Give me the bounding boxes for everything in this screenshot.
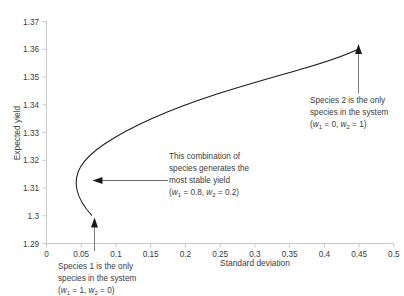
x-tick-label: 0.45	[351, 250, 367, 259]
arrowhead-left-icon	[93, 177, 103, 184]
x-tick-label: 0.05	[73, 250, 89, 259]
w1-value: = 0,	[322, 120, 340, 129]
y-tick-label: 1.29	[23, 240, 39, 249]
x-tick-label: 0	[44, 250, 49, 259]
x-axis-ticks	[47, 244, 394, 248]
annotation-species-1-only: Species 1 is the only species in the sys…	[58, 218, 136, 296]
annotation-line-1: Species 2 is the only	[310, 96, 386, 105]
y-tick-label: 1.32	[23, 156, 39, 165]
y-tick-label: 1.31	[23, 184, 39, 193]
annotation-line-2: species in the system	[58, 274, 136, 283]
arrowhead-up-icon	[355, 44, 362, 54]
w2-value: = 0.2)	[216, 188, 240, 197]
efficient-frontier-chart: 1.37 1.36 1.35 1.34 1.33 1.32 1.31 1.3 1…	[0, 0, 404, 296]
annotation-line-2: species generates the	[169, 164, 250, 173]
chart-figure: 1.37 1.36 1.35 1.34 1.33 1.32 1.31 1.3 1…	[0, 0, 404, 296]
y-axis	[43, 21, 47, 244]
y-tick-label: 1.34	[23, 101, 39, 110]
x-tick-label: 0.4	[319, 250, 331, 259]
annotation-line-3: most stable yield	[169, 176, 230, 185]
y-axis-ticks	[43, 22, 47, 244]
w1-value: = 0.8,	[181, 188, 206, 197]
w2-value: = 0)	[98, 286, 115, 295]
w2-value: = 1)	[350, 120, 367, 129]
y-tick-label: 1.3	[28, 212, 40, 221]
annotation-line-1: Species 1 is the only	[58, 262, 134, 271]
annotation-species-2-only: Species 2 is the only species in the sys…	[310, 44, 388, 130]
x-axis-title: Standard deviation	[220, 258, 290, 268]
x-tick-label: 0.15	[143, 250, 159, 259]
x-tick-label: 0.2	[180, 250, 192, 259]
annotation-weights: (w1 = 0, w2 = 1)	[310, 120, 367, 130]
arrowhead-up-icon	[91, 218, 98, 228]
annotation-line-1: This combination of	[169, 152, 241, 161]
annotation-stable-yield: This combination of species generates th…	[93, 152, 250, 199]
x-tick-label: 0.1	[110, 250, 122, 259]
y-tick-labels: 1.37 1.36 1.35 1.34 1.33 1.32 1.31 1.3 1…	[23, 18, 39, 249]
x-axis	[47, 244, 395, 248]
annotation-weights: (w1 = 1, w2 = 0)	[58, 286, 115, 296]
w1-value: = 1,	[70, 286, 88, 295]
y-tick-label: 1.36	[23, 45, 39, 54]
y-tick-label: 1.35	[23, 73, 39, 82]
y-axis-title: Expected yield	[12, 105, 22, 160]
annotation-line-2: species in the system	[310, 108, 388, 117]
y-tick-label: 1.33	[23, 129, 39, 138]
annotation-weights: (w1 = 0.8, w2 = 0.2)	[169, 188, 239, 198]
x-tick-label: 0.5	[388, 250, 400, 259]
y-tick-label: 1.37	[23, 18, 39, 27]
